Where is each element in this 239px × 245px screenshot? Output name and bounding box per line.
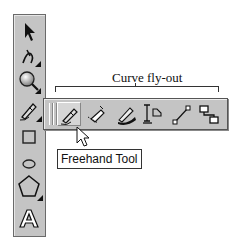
connector-line-tool-button[interactable]	[169, 102, 193, 126]
bezier-tool-button[interactable]	[85, 102, 109, 126]
freehand-pen-icon	[59, 104, 83, 128]
artistic-media-tool-button[interactable]	[114, 102, 138, 126]
tooltip: Freehand Tool	[57, 149, 142, 169]
toolbox	[13, 14, 46, 237]
artistic-media-icon	[115, 103, 139, 127]
polygon-tool-button[interactable]	[14, 173, 45, 203]
arrow-pointer-icon	[17, 21, 41, 43]
shape-tool-button[interactable]	[14, 45, 45, 69]
connector-boxes-icon	[198, 103, 222, 127]
curve-flyout-toolbar	[43, 98, 228, 130]
mouse-cursor-icon	[76, 126, 94, 150]
pentagon-icon	[17, 173, 45, 203]
pick-tool-button[interactable]	[14, 21, 45, 45]
freehand-tool-button[interactable]	[57, 102, 81, 126]
text-tool-button[interactable]	[14, 207, 45, 231]
curve-tool-button[interactable]	[14, 99, 45, 123]
connector-line-icon	[170, 103, 194, 127]
shape-node-icon	[17, 45, 43, 69]
magnifier-icon	[17, 70, 43, 96]
rectangle-icon	[17, 127, 41, 149]
rectangle-tool-button[interactable]	[14, 127, 45, 151]
dimension-icon	[141, 103, 165, 127]
ellipse-icon	[17, 153, 41, 175]
caption-bracket	[55, 86, 219, 92]
zoom-tool-button[interactable]	[14, 70, 45, 94]
flyout-caption: Curve fly-out	[112, 70, 182, 86]
text-a-icon	[17, 207, 41, 231]
interactive-connector-tool-button[interactable]	[197, 102, 221, 126]
dimension-tool-button[interactable]	[140, 102, 164, 126]
bezier-pen-icon	[86, 103, 110, 127]
freehand-pen-icon	[17, 99, 43, 123]
caption-bracket-tick	[135, 83, 136, 87]
